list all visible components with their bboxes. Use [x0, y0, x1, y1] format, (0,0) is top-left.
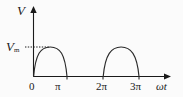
y-axis — [30, 6, 36, 77]
figure-canvas: V Vm 0 π 2π 3π ωt — [0, 0, 183, 97]
x-tick-label-3pi: 3π — [130, 81, 141, 92]
x-axis-label: ωt — [156, 81, 167, 92]
amplitude-label-subscript: m — [14, 46, 19, 54]
amplitude-label: Vm — [6, 40, 19, 54]
x-tick-label-2pi: 2π — [96, 81, 107, 92]
y-axis-label: V — [17, 4, 25, 17]
arch-2pi-to-3pi — [103, 47, 139, 77]
waveform-curve — [34, 47, 139, 77]
y-axis-arrowhead — [30, 6, 36, 13]
x-axis — [33, 73, 171, 79]
x-tick-label-0: 0 — [29, 81, 35, 92]
arch-0-to-pi — [34, 47, 67, 77]
x-axis-arrowhead — [164, 73, 171, 79]
amplitude-label-main: V — [6, 39, 14, 54]
x-tick-label-pi: π — [55, 81, 61, 92]
